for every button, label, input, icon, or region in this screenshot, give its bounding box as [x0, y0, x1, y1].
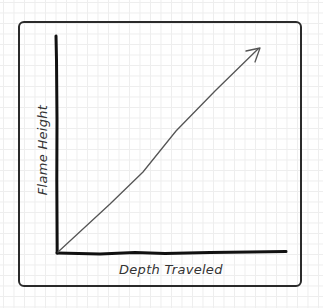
x-axis: [57, 252, 286, 255]
y-axis-label: Flame Height: [35, 105, 50, 195]
trend-line: [58, 49, 258, 252]
arrow-head-icon: [246, 48, 260, 62]
x-axis-label: Depth Traveled: [119, 262, 223, 277]
y-axis: [56, 36, 57, 253]
